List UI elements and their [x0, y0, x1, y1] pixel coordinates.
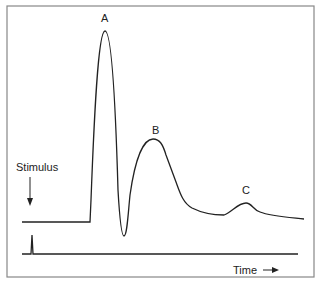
time-label: Time	[233, 264, 257, 276]
figure-frame	[7, 6, 314, 277]
waveform-diagram	[0, 0, 318, 282]
stimulus-trace	[22, 235, 298, 254]
time-arrow-icon	[263, 267, 279, 273]
peak-label-b: B	[152, 124, 159, 136]
stimulus-label: Stimulus	[16, 161, 58, 173]
peak-label-a: A	[101, 12, 108, 24]
peak-label-c: C	[242, 184, 250, 196]
stimulus-arrow-icon	[27, 177, 33, 206]
response-trace	[22, 31, 304, 236]
